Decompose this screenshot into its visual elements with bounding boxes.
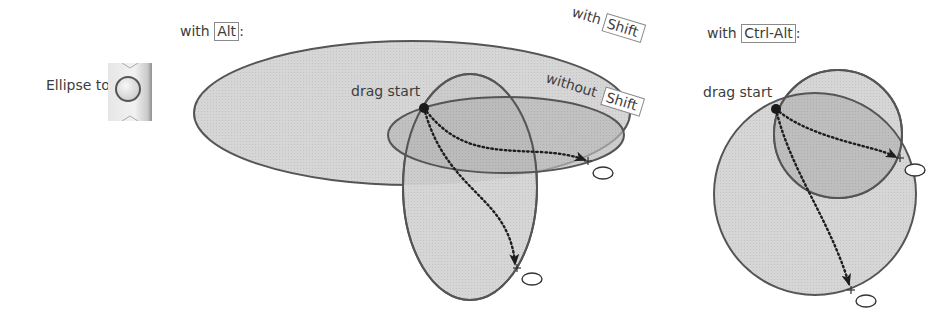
ctrl-alt-key: Ctrl-Alt bbox=[741, 24, 796, 43]
svg-text:with: with bbox=[570, 4, 603, 28]
ellipse-cursor-icon bbox=[593, 167, 613, 179]
heading-suffix: : bbox=[239, 23, 244, 39]
alt-key: Alt bbox=[214, 22, 239, 41]
ellipse-cursor-icon bbox=[905, 164, 925, 176]
drag-start-dot bbox=[771, 104, 781, 114]
ctrl-alt-panel bbox=[714, 70, 925, 307]
with-shift-label: with Shift bbox=[570, 4, 646, 43]
drag-start-dot bbox=[419, 103, 429, 113]
heading-prefix: with bbox=[180, 23, 210, 39]
ctrl-alt-panel-heading: with Ctrl-Alt: bbox=[707, 24, 801, 43]
drag-start-label: drag start bbox=[703, 84, 772, 100]
heading-prefix: with bbox=[707, 25, 737, 41]
ellipse-cursor-icon bbox=[522, 273, 542, 285]
drag-start-label: drag start bbox=[351, 83, 420, 99]
heading-suffix: : bbox=[796, 25, 801, 41]
diagram-canvas: with Shift without Shift bbox=[0, 0, 943, 326]
alt-panel-heading: with Alt: bbox=[180, 22, 244, 41]
ellipse-cursor-icon bbox=[856, 295, 876, 307]
